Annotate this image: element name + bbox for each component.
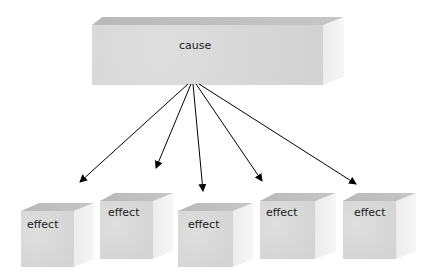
effect-box-1: effect [21,203,94,267]
effect-label-1: effect [27,218,58,231]
arrow-5 [199,84,356,184]
effect-label-5: effect [354,206,385,219]
effect-box-3: effect [178,203,253,267]
effect-label-3: effect [188,218,219,231]
effect-box-2: effect [100,193,173,259]
effect-label-2: effect [108,206,139,219]
arrow-1 [80,84,188,182]
effect-label-4: effect [266,206,297,219]
arrow-3 [193,84,203,191]
arrow-4 [196,84,262,181]
effect-box-5: effect [343,193,416,259]
effect-box-4: effect [260,193,336,259]
